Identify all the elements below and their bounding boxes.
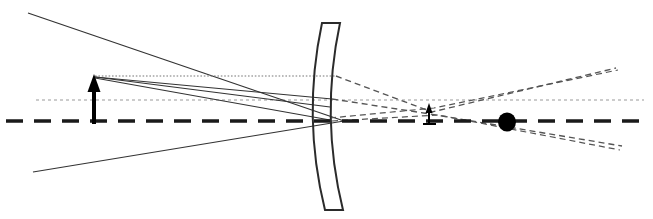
focal-point-dot: [498, 113, 516, 132]
diagram-canvas: [0, 0, 653, 219]
diagram-background: [0, 0, 653, 219]
optics-ray-diagram: Ray diagram of a concave (meniscus) lens…: [0, 0, 653, 219]
